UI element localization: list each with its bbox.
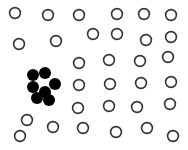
filled-circles-cluster — [27, 67, 61, 106]
circles-canvas — [0, 0, 188, 150]
open-circle — [141, 35, 152, 46]
open-circle — [104, 55, 115, 66]
open-circle — [74, 10, 85, 21]
filled-circle — [49, 78, 61, 90]
open-circle — [74, 58, 85, 69]
filled-circle — [31, 92, 43, 104]
open-circle — [168, 131, 179, 142]
filled-circle — [39, 67, 51, 79]
open-circle — [73, 103, 84, 114]
filled-circle — [43, 94, 55, 106]
open-circle — [10, 8, 21, 19]
open-circle — [136, 78, 147, 89]
dot-diagram — [0, 0, 188, 150]
open-circle — [105, 79, 116, 90]
open-circle — [112, 29, 123, 40]
open-circle — [104, 101, 115, 112]
open-circle — [43, 10, 54, 21]
open-circle — [132, 102, 143, 113]
open-circle — [15, 131, 26, 142]
open-circle — [142, 123, 153, 134]
open-circle — [165, 99, 176, 110]
open-circle — [135, 56, 146, 67]
open-circle — [14, 39, 25, 50]
open-circle — [112, 9, 123, 20]
open-circle — [166, 32, 177, 43]
open-circle — [166, 77, 177, 88]
open-circle — [166, 10, 177, 21]
filled-circle — [27, 69, 39, 81]
open-circle — [78, 123, 89, 134]
open-circle — [88, 29, 99, 40]
open-circle — [163, 52, 174, 63]
open-circle — [51, 36, 62, 47]
open-circle — [74, 80, 85, 91]
filled-circle — [27, 81, 39, 93]
open-circle — [111, 127, 122, 138]
open-circle — [139, 9, 150, 20]
open-circle — [48, 122, 59, 133]
open-circle — [22, 115, 33, 126]
